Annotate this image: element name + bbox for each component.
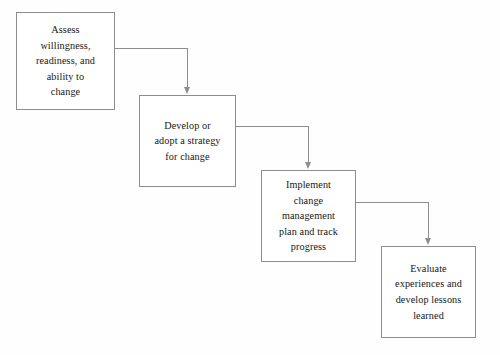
flowchart-canvas: Assess willingness, readiness, and abili… <box>0 0 500 355</box>
connector-2-horizontal-segment <box>236 126 309 127</box>
flowchart-node-develop-strategy[interactable]: Develop or adopt a strategy for change <box>139 95 236 187</box>
flowchart-node-assess-label: Assess willingness, readiness, and abili… <box>36 22 95 100</box>
flowchart-node-evaluate-lessons[interactable]: Evaluate experiences and develop lessons… <box>381 246 476 338</box>
flowchart-node-develop-strategy-label: Develop or adopt a strategy for change <box>154 118 220 165</box>
connector-1-arrowhead-icon <box>184 87 190 94</box>
flowchart-node-implement-plan-label: Implement change management plan and tra… <box>279 177 338 255</box>
connector-2-arrowhead-icon <box>305 162 311 169</box>
connector-1-vertical-segment <box>187 48 188 88</box>
flowchart-node-implement-plan[interactable]: Implement change management plan and tra… <box>261 170 356 262</box>
cut-off-caption <box>0 351 500 355</box>
connector-3-horizontal-segment <box>356 202 429 203</box>
flowchart-node-assess[interactable]: Assess willingness, readiness, and abili… <box>16 12 115 110</box>
flowchart-node-evaluate-lessons-label: Evaluate experiences and develop lessons… <box>395 261 462 323</box>
connector-2-vertical-segment <box>308 126 309 163</box>
connector-3-arrowhead-icon <box>425 238 431 245</box>
connector-1-horizontal-segment <box>115 48 188 49</box>
connector-3-vertical-segment <box>428 202 429 239</box>
